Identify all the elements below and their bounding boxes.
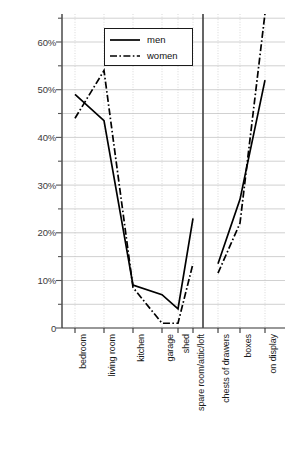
x-label-kitchen: kitchen <box>137 334 146 362</box>
x-label-boxes: boxes <box>244 334 253 358</box>
chart-figure: 60% 50% 40% 30% 20% 10% 0 <box>0 0 293 451</box>
x-label-living-room: living room <box>108 334 117 376</box>
x-label-shed: shed <box>182 334 191 353</box>
x-label-on-display: on display <box>269 334 278 374</box>
x-label-bedroom: bedroom <box>79 334 88 369</box>
x-label-spare-room-attic-loft: spare room/attic/loft <box>197 334 206 411</box>
x-label-chests-of-drawers: chests of drawers <box>222 334 231 403</box>
x-axis-category-labels: bedroom living room kitchen garage shed … <box>0 0 293 451</box>
x-label-garage: garage <box>166 334 175 361</box>
